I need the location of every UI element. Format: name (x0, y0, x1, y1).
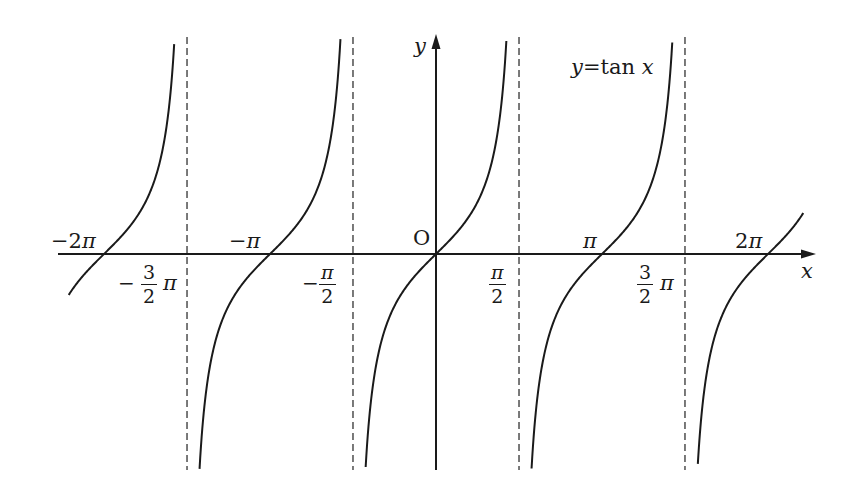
tick-label-pi-2: π 2 (489, 263, 506, 306)
equation-label: y=tan x (571, 57, 654, 78)
tangent-plot (0, 0, 858, 504)
tan-branch-curve (532, 42, 673, 468)
tick-label-pi: π (583, 231, 597, 252)
y-axis-label: y (414, 36, 426, 57)
equation-x: x (642, 55, 654, 79)
y-axis-arrow-icon (432, 34, 441, 49)
origin-label: O (413, 228, 430, 249)
tick-label-neg-3-2pi: 3 2 (141, 263, 157, 306)
tick-label-neg-pi-2-sign: − (302, 273, 319, 293)
tick-label-neg-3-2pi-pi: π (163, 273, 177, 294)
tick-label-neg-2pi: −2π (51, 231, 96, 252)
equation-fn: tan (600, 55, 634, 79)
tan-branch-curve (69, 44, 174, 295)
tick-label-2pi: 2π (735, 231, 762, 252)
tick-label-3-2pi: 3 2 (637, 263, 653, 306)
tick-label-3-2pi-pi: π (660, 273, 674, 294)
tick-label-neg-pi-2: π 2 (319, 263, 336, 306)
equation-equals: = (583, 55, 601, 79)
x-axis-arrow-icon (801, 250, 816, 259)
equation-y: y (571, 55, 583, 79)
x-axis-label: x (801, 261, 813, 282)
tick-label-neg-3-2pi-sign: − (118, 273, 135, 293)
tick-label-neg-pi: −π (229, 231, 260, 252)
